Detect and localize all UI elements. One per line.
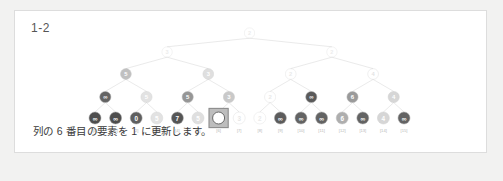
tree-edge (353, 103, 363, 112)
tree-node[interactable]: 2 (265, 91, 276, 102)
node-value: 2 (248, 30, 251, 36)
tree-edge (105, 103, 115, 112)
tree-edges (95, 38, 404, 112)
node-value: ∞ (93, 115, 98, 122)
tree-edge (208, 79, 229, 91)
tree-edge (188, 79, 209, 91)
tree-node[interactable]: ∞ (357, 112, 369, 124)
tree-node[interactable]: ∞ (316, 112, 328, 124)
tree-edge (126, 79, 147, 91)
tree-edge (291, 79, 312, 91)
tree-node[interactable]: 3 (233, 112, 245, 124)
leaf-index-label: [14] (380, 128, 387, 133)
leaf-index-label: [15] (401, 128, 408, 133)
node-value: 5 (196, 115, 200, 122)
tree-node[interactable]: 2 (244, 28, 254, 38)
node-value: 3 (237, 115, 241, 122)
tree-node[interactable]: 3 (162, 47, 172, 57)
leaf-index-label: [12] (339, 128, 346, 133)
tree-edge (373, 79, 394, 91)
tree-edge (311, 103, 321, 112)
leaf-index-label: [6] (216, 128, 221, 133)
tree-level-2: 5324 (121, 69, 379, 80)
tree-edge (136, 103, 146, 112)
tree-edge (291, 57, 332, 68)
leaf-index-label: [13] (359, 128, 366, 133)
tree-edge (167, 57, 208, 68)
leaf-index-label: [7] (237, 128, 242, 133)
tree-node[interactable]: 4 (388, 91, 399, 102)
tree-node[interactable]: ∞ (398, 112, 410, 124)
tree-node[interactable]: 2 (327, 47, 337, 57)
tree-node[interactable]: 3 (223, 91, 234, 102)
tree-node[interactable]: ∞ (306, 91, 317, 102)
tree-edge (177, 103, 187, 112)
tree-edge (301, 103, 311, 112)
tree-node[interactable]: 3 (203, 69, 214, 80)
node-circle (213, 112, 225, 124)
tree-node[interactable]: ∞ (295, 112, 307, 124)
tree-node[interactable]: 5 (121, 69, 132, 80)
tree-edge (126, 57, 167, 68)
tree-node[interactable]: 6 (347, 91, 358, 102)
node-value: ∞ (319, 115, 324, 122)
node-value: 4 (382, 115, 386, 122)
node-value: 7 (176, 115, 180, 122)
leaf-index-label: [10] (298, 128, 305, 133)
tree-node[interactable]: 5 (141, 91, 152, 102)
tree-level-0: 2 (244, 28, 254, 38)
node-value: ∞ (278, 115, 283, 122)
caption-text: 列の 6 番目の要素を 1 に更新します。 (33, 123, 212, 138)
tree-node[interactable]: 6 (336, 112, 348, 124)
node-value: 6 (340, 115, 344, 122)
tree-edge (394, 103, 404, 112)
tree-edge (188, 103, 198, 112)
node-value: 2 (330, 49, 333, 55)
node-value: 5 (155, 115, 159, 122)
node-value: ∞ (299, 115, 304, 122)
leaf-index-label: [8] (258, 128, 263, 133)
tree-node[interactable]: ∞ (100, 91, 111, 102)
node-value: ∞ (113, 115, 118, 122)
visualization-card: 1-2 2325324∞5532∞64∞∞057532∞∞∞6∞4∞[0][1]… (14, 10, 487, 153)
tree-node[interactable]: ∞ (274, 112, 286, 124)
tree-edge (342, 103, 352, 112)
node-value: ∞ (309, 94, 313, 100)
tree-edge (270, 79, 291, 91)
node-value: 2 (289, 71, 292, 77)
leaf-index-label: [9] (278, 128, 283, 133)
tree-edge (167, 38, 249, 47)
node-value: ∞ (361, 115, 366, 122)
tree-node[interactable]: 4 (377, 112, 389, 124)
tree-level-1: 32 (162, 47, 337, 57)
tree-level-3: ∞5532∞64 (100, 91, 400, 102)
node-value: 3 (166, 49, 169, 55)
tree-edge (353, 79, 374, 91)
leaf-index-label: [11] (318, 128, 325, 133)
tree-edge (95, 103, 105, 112)
tree-edge (105, 79, 126, 91)
node-value: ∞ (103, 94, 107, 100)
node-value: 2 (258, 115, 262, 122)
tree-edge (229, 103, 239, 112)
tree-edge (147, 103, 157, 112)
node-value: ∞ (402, 115, 407, 122)
tree-edge (250, 38, 332, 47)
tree-node-highlighted[interactable] (209, 108, 228, 127)
tree-node[interactable]: 5 (182, 91, 193, 102)
tree-node[interactable]: 2 (285, 69, 296, 80)
tree-edge (383, 103, 393, 112)
node-value: 0 (134, 115, 138, 122)
tree-edge (260, 103, 270, 112)
tree-node[interactable]: 2 (254, 112, 266, 124)
tree-edge (332, 57, 373, 68)
tree-edge (270, 103, 280, 112)
tree-node[interactable]: 4 (368, 69, 379, 80)
